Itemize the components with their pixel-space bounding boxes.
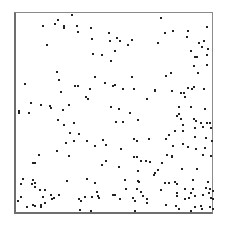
data-point (80, 200, 82, 202)
data-point (132, 197, 134, 199)
data-point (112, 85, 114, 87)
data-point (164, 32, 166, 34)
data-point (201, 208, 203, 210)
data-point (97, 195, 99, 197)
data-point (178, 208, 180, 210)
data-point (195, 148, 197, 150)
data-point (63, 25, 65, 27)
data-point (63, 27, 65, 29)
data-point (207, 48, 209, 50)
data-point (187, 146, 189, 148)
data-point (204, 147, 206, 149)
data-point (58, 79, 60, 81)
data-point (208, 192, 210, 194)
data-point (210, 155, 212, 157)
data-point (210, 127, 212, 129)
data-point (102, 139, 104, 141)
data-point (209, 206, 211, 208)
data-point (182, 124, 184, 126)
data-point (77, 85, 79, 87)
data-point (68, 104, 70, 106)
data-point (71, 14, 73, 16)
data-point (146, 98, 148, 100)
data-point (78, 133, 80, 135)
data-point (145, 160, 147, 162)
data-point (91, 196, 93, 198)
data-point (56, 71, 58, 73)
data-point (178, 113, 180, 115)
data-point (149, 161, 151, 163)
data-point (105, 144, 107, 146)
data-point (176, 192, 178, 194)
data-point (124, 179, 126, 181)
data-point (180, 92, 182, 94)
data-point (168, 134, 170, 136)
data-point (136, 188, 138, 190)
data-point (212, 198, 214, 200)
data-point (34, 205, 36, 207)
data-point (190, 192, 192, 194)
data-point (108, 32, 110, 34)
data-point (176, 115, 178, 117)
data-point (119, 198, 121, 200)
data-point (127, 44, 129, 46)
data-point (73, 140, 75, 142)
data-point (101, 54, 103, 56)
data-point (154, 90, 156, 92)
data-point (114, 194, 116, 196)
data-point (193, 86, 195, 88)
data-point (31, 183, 33, 185)
data-point (110, 60, 112, 62)
data-point (201, 46, 203, 48)
data-point (190, 210, 192, 212)
data-point (39, 189, 41, 191)
data-point (161, 162, 163, 164)
data-point (57, 19, 59, 21)
data-point (194, 56, 196, 58)
data-point (136, 140, 138, 142)
data-point (60, 91, 62, 93)
data-point (28, 112, 30, 114)
data-point (194, 127, 196, 129)
data-point (109, 40, 111, 42)
data-point (186, 36, 188, 38)
data-point (114, 84, 116, 86)
data-point (17, 200, 19, 202)
data-point (146, 202, 148, 204)
data-point (92, 53, 94, 55)
data-point (50, 107, 52, 109)
data-point (195, 120, 197, 122)
data-point (200, 122, 202, 124)
data-point (142, 195, 144, 197)
data-point (86, 178, 88, 180)
data-point (86, 140, 88, 142)
data-point (34, 186, 36, 188)
data-point (122, 121, 124, 123)
data-point (90, 27, 92, 29)
data-point (134, 200, 136, 202)
data-point (176, 183, 178, 185)
data-point (202, 194, 204, 196)
data-point (146, 198, 148, 200)
data-point (202, 126, 204, 128)
data-point (114, 50, 116, 52)
data-point (24, 83, 26, 85)
data-point (133, 156, 135, 158)
data-point (212, 208, 214, 210)
data-point (66, 180, 68, 182)
data-point (160, 17, 162, 19)
data-point (190, 106, 192, 108)
data-point (193, 65, 195, 67)
data-point (190, 50, 192, 52)
data-point (210, 197, 212, 199)
data-point (30, 102, 32, 104)
data-point (110, 106, 112, 108)
data-point (120, 148, 122, 150)
data-point (94, 145, 96, 147)
data-point (194, 195, 196, 197)
data-point (196, 56, 198, 58)
data-point (26, 206, 28, 208)
data-point (184, 198, 186, 200)
data-point (74, 85, 76, 87)
data-point (188, 197, 190, 199)
